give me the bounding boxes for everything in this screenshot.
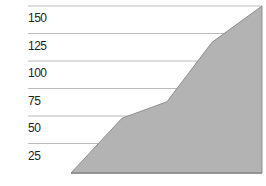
area-chart: 150125100755025	[0, 0, 266, 186]
y-tick-label: 75	[28, 94, 41, 108]
y-tick-label: 150	[28, 11, 47, 25]
y-tick-label: 100	[28, 66, 47, 80]
y-tick-label: 25	[28, 149, 41, 163]
y-tick-label: 50	[28, 121, 41, 135]
area-series	[71, 6, 262, 173]
y-tick-label: 125	[28, 39, 47, 53]
